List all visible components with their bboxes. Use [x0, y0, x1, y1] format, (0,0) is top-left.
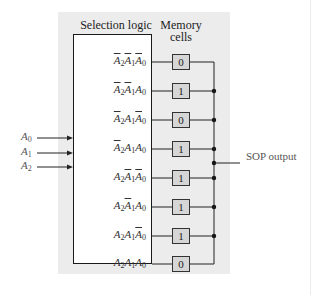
wiring [0, 0, 316, 295]
